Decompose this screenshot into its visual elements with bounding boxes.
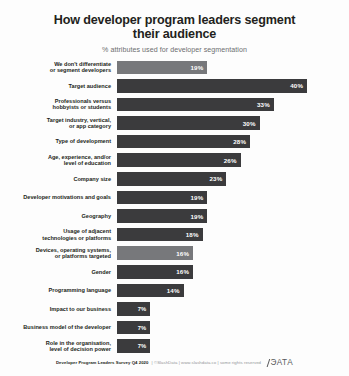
chart-row: Professionals versus hobbyists or studen… (0, 98, 349, 112)
chart-bar-value: 19% (191, 213, 204, 220)
chart-bar-value: 19% (191, 64, 204, 71)
footer-meta: | ©SlashData | www.slashdata.co | some r… (152, 360, 262, 365)
chart-row: Impact to our business7% (0, 302, 349, 316)
chart-bar: 26% (117, 153, 241, 167)
chart-bar: 16% (117, 265, 193, 279)
chart-bar-area: 28% (117, 135, 349, 149)
chart-row-label: Geography (0, 213, 117, 219)
chart-bar-area: 7% (117, 339, 349, 353)
chart-row-label: Programming language (0, 287, 117, 293)
chart-bar-value: 7% (138, 306, 147, 312)
chart-bar-area: 40% (117, 79, 349, 93)
chart-bar: 33% (117, 98, 274, 112)
chart-bar-value: 40% (290, 82, 303, 89)
chart-bar-area: 7% (117, 302, 349, 316)
chart-row: Geography19% (0, 209, 349, 223)
footer-source: Developer Program Leaders Survey Q4 2020 (56, 360, 149, 365)
chart-row: Type of development28% (0, 135, 349, 149)
chart-bar-value: 14% (167, 287, 180, 294)
chart-footer: Developer Program Leaders Survey Q4 2020… (0, 358, 349, 367)
chart-header: How developer program leaders segment th… (0, 0, 349, 54)
chart-row-label: Target audience (0, 83, 117, 89)
chart-bar-area: 19% (117, 61, 349, 75)
chart-row: Usage of adjacent technologies or platfo… (0, 228, 349, 242)
bar-chart: We don't differentiate or segment develo… (0, 61, 349, 353)
chart-row: Programming language14% (0, 284, 349, 298)
chart-bar: 7% (117, 302, 150, 316)
chart-bar: 19% (117, 209, 207, 223)
chart-bar: 19% (117, 191, 207, 205)
chart-row: Role in the organisation, level of decis… (0, 339, 349, 353)
chart-bar-area: 16% (117, 265, 349, 279)
chart-bar-value: 18% (186, 231, 199, 238)
logo-slash-mark (267, 359, 270, 367)
chart-bar-area: 7% (117, 321, 349, 335)
chart-bar: 7% (117, 321, 150, 335)
chart-bar: 14% (117, 284, 184, 298)
chart-row-label: Usage of adjacent technologies or platfo… (0, 228, 117, 241)
chart-bar: 18% (117, 228, 203, 242)
chart-bar-value: 30% (243, 120, 256, 127)
footer-inner: Developer Program Leaders Survey Q4 2020… (56, 358, 293, 367)
chart-row: Target industry, vertical, or app catego… (0, 116, 349, 130)
chart-row-label: Age, experience, and/or level of educati… (0, 154, 117, 167)
chart-row: Age, experience, and/or level of educati… (0, 153, 349, 167)
chart-bar-area: 30% (117, 116, 349, 130)
chart-bar-area: 19% (117, 191, 349, 205)
chart-bar-value: 7% (138, 325, 147, 331)
chart-bar: 7% (117, 339, 150, 353)
chart-row-label: We don't differentiate or segment develo… (0, 61, 117, 74)
chart-bar-area: 16% (117, 246, 349, 260)
chart-bar-value: 33% (257, 101, 270, 108)
chart-row-label: Company size (0, 176, 117, 182)
chart-row: Devices, operating systems, or platforms… (0, 246, 349, 260)
chart-bar-value: 16% (176, 268, 189, 275)
chart-bar-value: 16% (176, 250, 189, 257)
chart-row-label: Professionals versus hobbyists or studen… (0, 98, 117, 111)
chart-row-label: Impact to our business (0, 306, 117, 312)
chart-row: Company size23% (0, 172, 349, 186)
chart-page: How developer program leaders segment th… (0, 0, 349, 376)
chart-bar-value: 28% (233, 138, 246, 145)
chart-row-label: Business model of the developer (0, 324, 117, 330)
chart-bar: 30% (117, 116, 260, 130)
chart-bar-area: 23% (117, 172, 349, 186)
chart-bar: 23% (117, 172, 226, 186)
chart-bar-value: 19% (191, 194, 204, 201)
chart-row-label: Developer motivations and goals (0, 194, 117, 200)
chart-row: Developer motivations and goals19% (0, 191, 349, 205)
chart-row: We don't differentiate or segment develo… (0, 61, 349, 75)
chart-bar: 16% (117, 246, 193, 260)
chart-row-label: Gender (0, 269, 117, 275)
chart-bar-area: 18% (117, 228, 349, 242)
chart-bar: 40% (117, 79, 307, 93)
chart-bar-value: 7% (138, 343, 147, 349)
chart-bar: 19% (117, 61, 207, 75)
chart-bar-area: 14% (117, 284, 349, 298)
chart-row-label: Devices, operating systems, or platforms… (0, 247, 117, 260)
chart-bar-value: 26% (224, 157, 237, 164)
chart-row-label: Type of development (0, 138, 117, 144)
slashdata-logo-icon: ЭАТА (268, 358, 293, 367)
chart-row: Gender16% (0, 265, 349, 279)
chart-row: Target audience40% (0, 79, 349, 93)
chart-row-label: Role in the organisation, level of decis… (0, 340, 117, 353)
chart-bar-area: 19% (117, 209, 349, 223)
chart-bar: 28% (117, 135, 250, 149)
chart-bar-area: 33% (117, 98, 349, 112)
chart-row-label: Target industry, vertical, or app catego… (0, 117, 117, 130)
page-title: How developer program leaders segment th… (50, 14, 300, 41)
chart-subtitle: % attributes used for developer segmenta… (0, 46, 349, 54)
chart-bar-value: 23% (210, 175, 223, 182)
chart-row: Business model of the developer7% (0, 321, 349, 335)
chart-bar-area: 26% (117, 153, 349, 167)
